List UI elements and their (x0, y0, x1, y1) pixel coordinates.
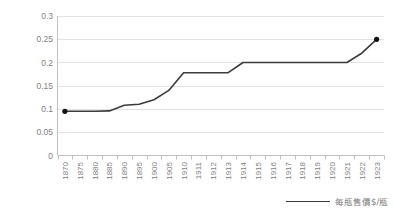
x-axis-tick-label: 1885 (105, 162, 114, 180)
x-axis-tick-label: 1895 (135, 162, 144, 180)
x-axis-tick-label: 1920 (328, 162, 337, 180)
x-axis-tick-label: 1870 (61, 162, 70, 180)
x-axis-tick-label: 1900 (150, 162, 159, 180)
x-axis-tick-label: 1917 (284, 162, 293, 180)
x-axis-tick-label: 1910 (180, 162, 189, 180)
x-axis-labels: 1870187518801885189018951900190519101911… (0, 0, 394, 216)
line-chart: 0.30.250.20.150.10.050 18701875188018851… (0, 0, 394, 216)
x-axis-tick-label: 1911 (194, 162, 203, 179)
x-axis-tick-label: 1890 (120, 162, 129, 180)
x-axis-tick-label: 1913 (224, 162, 233, 180)
x-axis-tick-label: 1921 (343, 162, 352, 180)
x-axis-tick-label: 1918 (298, 162, 307, 180)
x-axis-tick-label: 1914 (239, 162, 248, 180)
x-axis-tick-label: 1905 (165, 162, 174, 180)
x-axis-tick-label: 1919 (313, 162, 322, 180)
x-axis-tick-label: 1923 (373, 162, 382, 180)
chart-legend: 每瓶售價$/瓶 (286, 194, 388, 208)
x-axis-tick-label: 1916 (269, 162, 278, 180)
x-axis-tick-label: 1912 (209, 162, 218, 180)
x-axis-tick-label: 1915 (254, 162, 263, 180)
x-axis-tick-label: 1922 (358, 162, 367, 180)
legend-series-label: 每瓶售價$/瓶 (335, 195, 388, 207)
x-axis-tick-label: 1875 (76, 162, 85, 180)
x-axis-tick-label: 1880 (91, 162, 100, 180)
legend-line-swatch (286, 201, 330, 202)
